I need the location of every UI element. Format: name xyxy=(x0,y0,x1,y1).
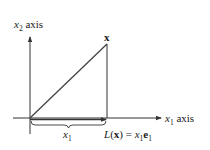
brace-x1-label: x1 xyxy=(62,128,72,143)
brace xyxy=(31,121,106,128)
projection-label: L(x) = x1e1 xyxy=(103,128,152,143)
projection-diagram: x2 axis x x1 axis x1 L(x) = x1e1 xyxy=(0,0,210,150)
vector-x-line xyxy=(30,44,107,118)
x2-axis-label: x2 axis xyxy=(13,18,43,33)
x1-axis-label: x1 axis xyxy=(164,112,194,127)
vector-x-label: x xyxy=(104,31,110,43)
